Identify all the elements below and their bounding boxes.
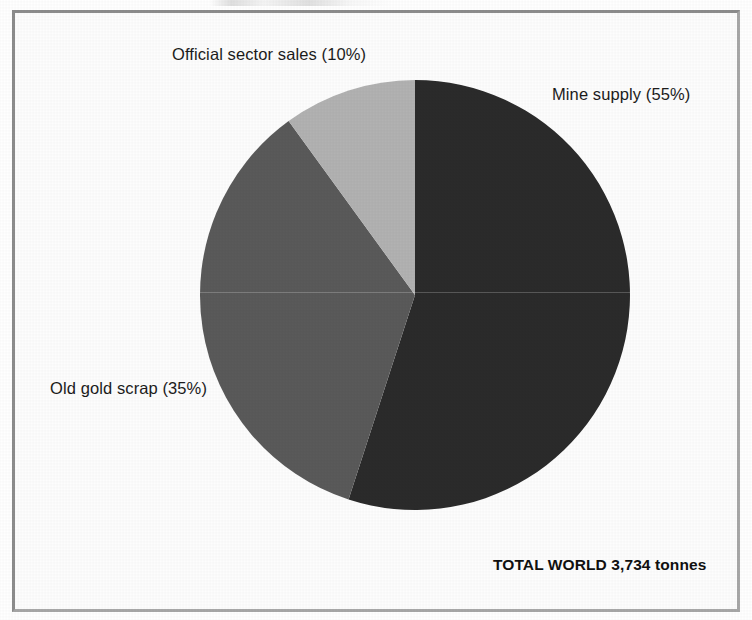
pie-label-old-gold-scrap: Old gold scrap (35%) [50, 379, 207, 398]
pie-label-official-sector-sales: Official sector sales (10%) [172, 45, 366, 64]
scan-artifact-strip [0, 0, 752, 9]
total-world-caption: TOTAL WORLD 3,734 tonnes [493, 556, 706, 574]
pie-label-mine-supply: Mine supply (55%) [552, 85, 690, 104]
